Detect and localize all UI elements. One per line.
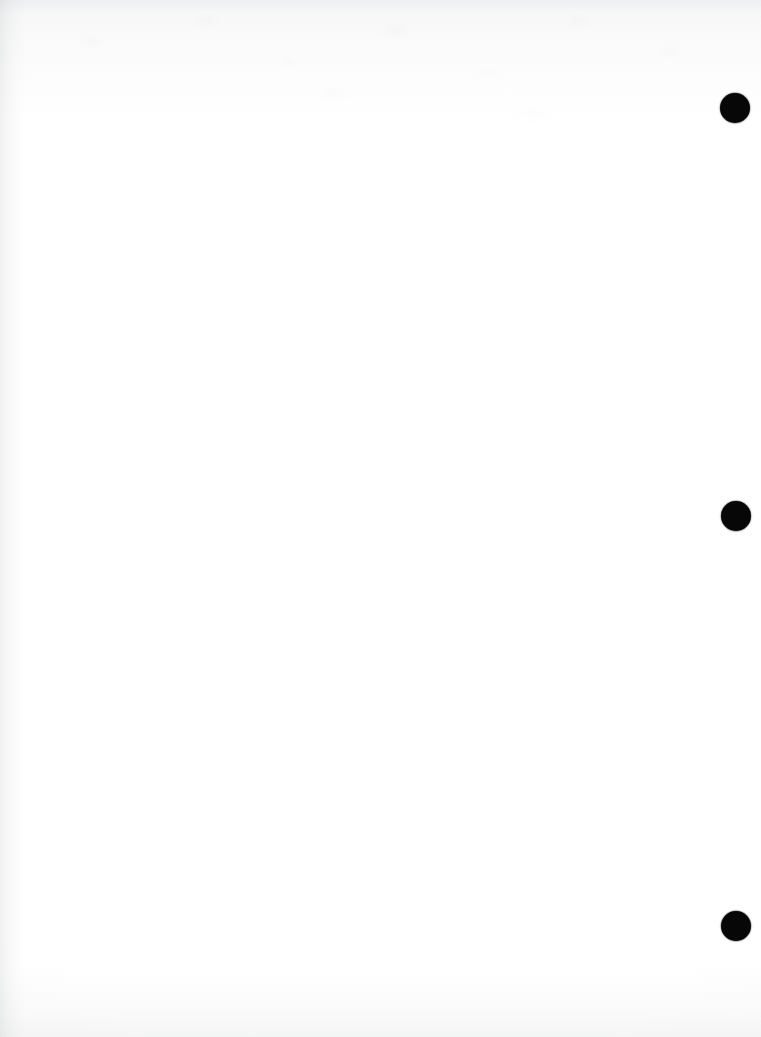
scan-shadow-top-edge bbox=[0, 0, 761, 14]
scanned-page bbox=[0, 0, 761, 1037]
margin-dot-3 bbox=[721, 911, 751, 941]
margin-dot-2 bbox=[721, 501, 751, 531]
scan-shadow-bottom-edge bbox=[0, 967, 761, 1037]
bleed-through-top-artifact bbox=[0, 0, 761, 120]
scan-shadow-left-edge bbox=[0, 0, 26, 1037]
paper-grain-texture bbox=[0, 0, 761, 1037]
margin-dot-1 bbox=[720, 93, 750, 123]
